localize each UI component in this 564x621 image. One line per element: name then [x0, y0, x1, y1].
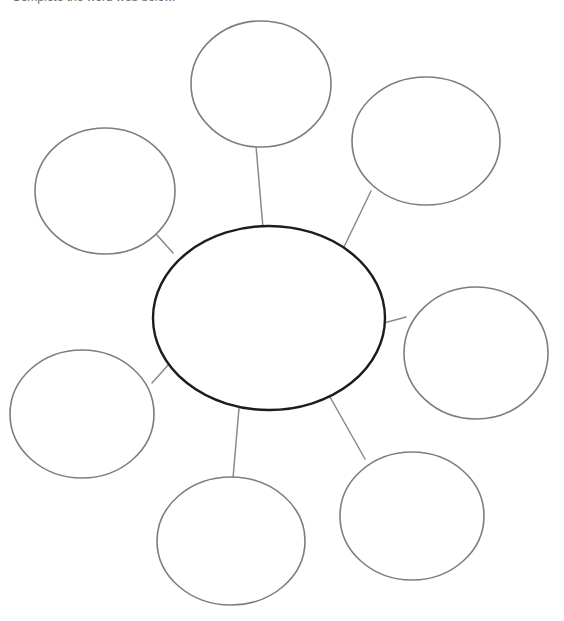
- connector-top-left: [157, 235, 173, 253]
- node-top-right-shape[interactable]: [352, 77, 500, 205]
- node-right[interactable]: [404, 287, 548, 419]
- center-node-shape[interactable]: [153, 226, 385, 410]
- page-instruction-text: Complete the word web below.: [12, 0, 175, 4]
- word-web-diagram: [0, 0, 564, 621]
- connector-top-right: [343, 191, 371, 249]
- connector-bottom: [233, 408, 239, 478]
- center-node[interactable]: [153, 226, 385, 410]
- connector-top: [256, 146, 263, 228]
- node-top-left-shape[interactable]: [35, 128, 175, 254]
- node-bottom-left-shape[interactable]: [10, 350, 154, 478]
- header-clipped-strip: Complete the word web below.: [0, 0, 564, 9]
- node-right-shape[interactable]: [404, 287, 548, 419]
- connector-bottom-right: [330, 397, 365, 459]
- node-top-right[interactable]: [352, 77, 500, 205]
- node-top[interactable]: [191, 21, 331, 147]
- node-bottom-left[interactable]: [10, 350, 154, 478]
- node-top-left[interactable]: [35, 128, 175, 254]
- connector-right: [384, 317, 406, 323]
- node-bottom-shape[interactable]: [157, 477, 305, 605]
- node-bottom[interactable]: [157, 477, 305, 605]
- node-bottom-right[interactable]: [340, 452, 484, 580]
- node-bottom-right-shape[interactable]: [340, 452, 484, 580]
- node-top-shape[interactable]: [191, 21, 331, 147]
- connector-bottom-left: [152, 363, 170, 383]
- page-root: Complete the word web below.: [0, 0, 564, 621]
